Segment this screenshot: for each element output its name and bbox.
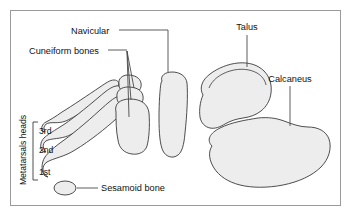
label-sesamoid-bone: Sesamoid bone (101, 183, 165, 193)
navicular-leader-line (119, 30, 168, 72)
label-calcaneus: Calcaneus (268, 74, 312, 84)
label-cuneiform-bones: Cuneiform bones (29, 46, 99, 56)
cuneiform-medial-bone (116, 99, 150, 154)
label-metatarsals-heads: Metatarsals heads (18, 115, 28, 185)
figure-page: Navicular Cuneiform bones Talus Calcaneu… (0, 0, 351, 217)
foot-bones-diagram: Navicular Cuneiform bones Talus Calcaneu… (0, 0, 351, 217)
label-metatarsal-2nd: 2nd (39, 145, 54, 155)
sesamoid-bone (54, 181, 76, 195)
metatarsals-bracket (33, 122, 38, 180)
label-talus: Talus (236, 22, 258, 32)
navicular-bone (159, 72, 187, 157)
label-navicular: Navicular (71, 26, 109, 36)
label-metatarsal-3rd: 3rd (39, 126, 52, 136)
calcaneus-bone (209, 118, 330, 188)
label-metatarsal-1st: 1st (39, 167, 51, 177)
